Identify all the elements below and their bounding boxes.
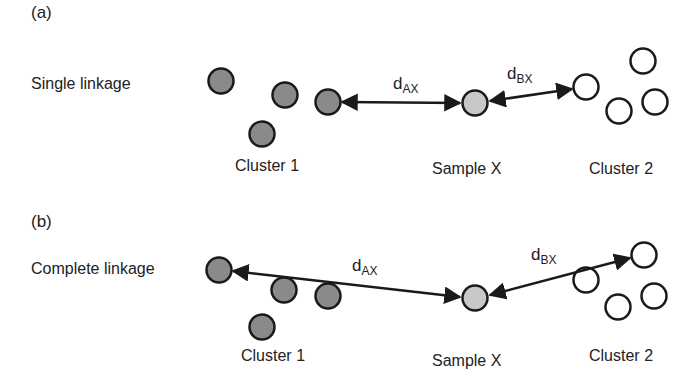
- panel-label-b: (b): [31, 212, 52, 232]
- panel-label-a: (a): [31, 3, 52, 23]
- linkage-diagram: [0, 0, 698, 386]
- cluster2-points: [574, 243, 667, 320]
- dbx-label: dBX: [531, 245, 556, 267]
- method-label-complete: Complete linkage: [31, 260, 155, 278]
- dbx-label: dBX: [507, 64, 532, 86]
- dax-label: dAX: [393, 74, 418, 96]
- cluster2-point: [632, 243, 657, 268]
- cluster1-point: [316, 284, 341, 309]
- dbx-sub: BX: [516, 72, 532, 86]
- dax-sub: AX: [402, 82, 418, 96]
- method-label-single: Single linkage: [31, 75, 131, 93]
- cluster1-label: Cluster 1: [241, 347, 305, 365]
- cluster1-label: Cluster 1: [235, 157, 299, 175]
- dax-arrow: [233, 271, 460, 297]
- dax-arrow: [342, 102, 460, 103]
- cluster1-point: [250, 122, 275, 147]
- cluster1-point: [250, 315, 275, 340]
- cluster2-point: [631, 49, 656, 74]
- cluster2-point: [606, 295, 631, 320]
- cluster1-points: [207, 258, 341, 340]
- sample-x-label: Sample X: [432, 352, 501, 370]
- cluster2-point: [574, 75, 599, 100]
- dax-sub: AX: [361, 264, 377, 278]
- cluster1-point: [316, 90, 341, 115]
- cluster2-label: Cluster 2: [589, 347, 653, 365]
- sample-x-point: [463, 91, 488, 116]
- dbx-arrow: [490, 258, 630, 295]
- sample-x-label: Sample X: [432, 160, 501, 178]
- cluster1-point: [207, 258, 232, 283]
- sample-x-point: [463, 286, 488, 311]
- cluster1-points: [209, 69, 341, 147]
- cluster2-label: Cluster 2: [589, 160, 653, 178]
- dbx-sub: BX: [540, 253, 556, 267]
- cluster2-point: [643, 90, 668, 115]
- cluster2-point: [642, 284, 667, 309]
- cluster1-point: [272, 278, 297, 303]
- cluster1-point: [273, 83, 298, 108]
- dbx-arrow: [490, 89, 572, 101]
- panel-b-graphic: [207, 243, 667, 340]
- cluster2-point: [607, 99, 632, 124]
- panel-a-graphic: [209, 49, 668, 147]
- cluster1-point: [209, 69, 234, 94]
- dax-label: dAX: [352, 256, 377, 278]
- cluster2-points: [574, 49, 668, 124]
